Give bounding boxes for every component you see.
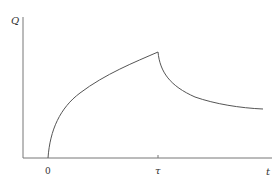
diagram: Q t 0 τ [0,0,279,183]
q-curve-rise [48,52,158,158]
y-axis-label: Q [11,15,19,26]
tau-tick-label: τ [155,165,161,176]
q-curve-decay [158,52,263,109]
x-axis-label: t [266,166,271,177]
origin-tick-label: 0 [45,166,51,176]
